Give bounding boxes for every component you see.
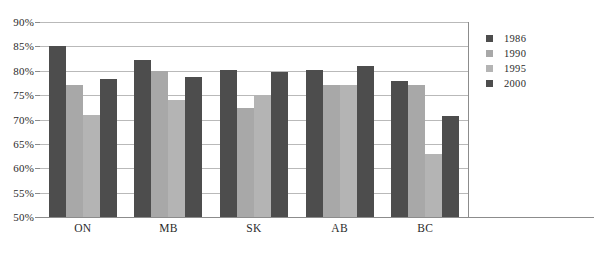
legend-swatch-icon	[486, 65, 493, 72]
bar	[185, 77, 202, 217]
x-axis-label: BC	[382, 222, 468, 234]
legend-label: 2000	[504, 78, 526, 89]
bar	[168, 100, 185, 217]
bar	[442, 116, 459, 217]
x-axis-labels: ONMBSKABBC	[40, 222, 468, 234]
bar	[254, 95, 271, 217]
bar	[323, 85, 340, 217]
legend-item: 1990	[486, 47, 526, 60]
legend-item: 2000	[486, 77, 526, 90]
bar	[408, 85, 425, 217]
bar	[391, 81, 408, 218]
bar	[83, 115, 100, 217]
y-axis-tick-label: 50%	[13, 211, 34, 223]
legend-item: 1995	[486, 62, 526, 75]
legend: 1986199019952000	[486, 32, 526, 92]
x-axis-line	[40, 217, 594, 218]
bar-group	[382, 22, 468, 217]
x-axis-label: ON	[40, 222, 126, 234]
legend-swatch-icon	[486, 35, 493, 42]
bar	[49, 46, 66, 217]
legend-label: 1995	[504, 63, 526, 74]
bar	[357, 66, 374, 217]
bar-group	[40, 22, 126, 217]
bar	[100, 79, 117, 217]
legend-item: 1986	[486, 32, 526, 45]
legend-label: 1986	[504, 33, 526, 44]
y-axis-tick-label: 70%	[13, 114, 34, 126]
y-axis-tick-label: 65%	[13, 138, 34, 150]
bar-group	[297, 22, 383, 217]
bar-groups	[40, 22, 468, 217]
bar	[237, 108, 254, 217]
legend-label: 1990	[504, 48, 526, 59]
bar	[271, 72, 288, 217]
legend-swatch-icon	[486, 80, 493, 87]
bar	[425, 154, 442, 217]
y-axis-tick-label: 60%	[13, 162, 34, 174]
y-axis-tick-label: 75%	[13, 89, 34, 101]
bar	[151, 71, 168, 217]
bar	[306, 70, 323, 217]
y-axis: 90%85%80%75%70%65%60%55%50%	[0, 22, 34, 217]
bar-group	[126, 22, 212, 217]
y-axis-tick-label: 55%	[13, 187, 34, 199]
x-axis-label: SK	[211, 222, 297, 234]
plot-area	[40, 22, 468, 217]
plot-right-border	[468, 22, 469, 218]
legend-swatch-icon	[486, 50, 493, 57]
y-axis-tick-label: 90%	[13, 16, 34, 28]
bar-group	[211, 22, 297, 217]
y-axis-tick-label: 80%	[13, 65, 34, 77]
bar	[66, 85, 83, 217]
bar	[340, 85, 357, 217]
y-axis-tick-label: 85%	[13, 40, 34, 52]
x-axis-label: AB	[297, 222, 383, 234]
x-axis-label: MB	[126, 222, 212, 234]
bar	[220, 70, 237, 217]
bar-chart: 90%85%80%75%70%65%60%55%50% ONMBSKABBC 1…	[0, 0, 598, 253]
bar	[134, 60, 151, 217]
